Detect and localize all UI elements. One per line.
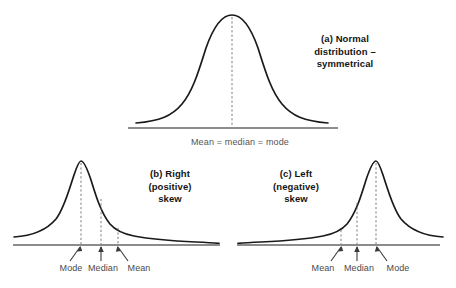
label-right-skew-mode: Mode [60, 263, 83, 273]
normal-equality-note: Mean = median = mode [150, 137, 330, 147]
label-right-skew-median: Median [88, 263, 118, 273]
panel-a-caption: (a) Normal distribution – symmetrical [282, 33, 408, 71]
right-skew-arrow-median [98, 246, 104, 261]
panel-c-caption: (c) Left (negative) skew [252, 168, 340, 206]
left-skew-arrow-mode [375, 246, 387, 261]
figure-canvas: (a) Normal distribution – symmetrical Me… [0, 0, 456, 288]
left-skew-arrow-mean [331, 246, 343, 261]
left-skew-arrow-median [354, 246, 360, 261]
label-left-skew-mean: Mean [312, 263, 335, 273]
panel-b-caption: (b) Right (positive) skew [126, 168, 214, 206]
label-left-skew-median: Median [344, 263, 374, 273]
label-left-skew-mode: Mode [387, 263, 410, 273]
label-right-skew-mean: Mean [128, 263, 151, 273]
right-skew-arrow-mean [116, 246, 128, 261]
panel-a-normal [128, 15, 338, 128]
right-skew-arrow-mode [70, 246, 82, 261]
